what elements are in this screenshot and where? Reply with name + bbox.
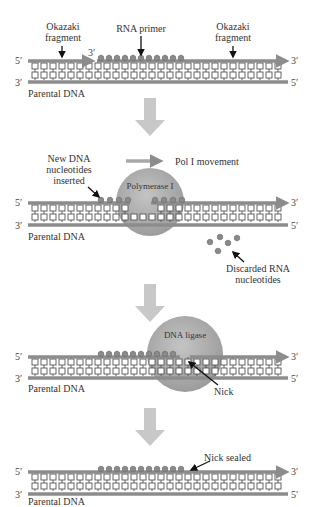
panel-step4 (28, 461, 288, 494)
end-3prime: 3′ (291, 198, 298, 208)
label-parental-dna: Parental DNA (28, 383, 85, 394)
end-3prime: 3′ (291, 56, 298, 66)
label-nick-sealed: Nick sealed (204, 452, 251, 463)
end-3prime-primer: 3′ (88, 48, 95, 58)
end-5prime: 5′ (15, 56, 22, 66)
label-discarded-rna: Discarded RNA nucleotides (222, 263, 294, 285)
step-arrow-1 (135, 98, 165, 136)
label-nick: Nick (214, 386, 233, 397)
label-okazaki-left: Okazaki fragment (38, 21, 88, 43)
end-5prime: 5′ (291, 78, 298, 88)
label-parental-dna: Parental DNA (28, 496, 85, 507)
step-arrow-3 (135, 408, 165, 446)
panel-step3 (28, 316, 288, 392)
end-5prime: 5′ (291, 490, 298, 500)
base-pairs (32, 61, 281, 80)
discarded-rna-beads (207, 234, 240, 254)
label-pol-movement: Pol I movement (175, 156, 239, 167)
dna-replication-diagram (0, 0, 310, 507)
label-parental-dna: Parental DNA (28, 88, 85, 99)
label-dna-ligase: DNA ligase (155, 330, 215, 341)
end-5prime: 5′ (15, 467, 22, 477)
step-arrow-2 (135, 284, 165, 322)
end-5prime: 5′ (291, 221, 298, 231)
end-3prime: 3′ (15, 221, 22, 231)
rna-primer-beads (98, 55, 184, 61)
end-3prime: 3′ (15, 374, 22, 384)
label-polymerase-i: Polymerase I (118, 181, 182, 192)
end-5prime: 5′ (15, 198, 22, 208)
label-new-dna-inserted: New DNA nucleotides inserted (40, 153, 98, 186)
end-3prime: 3′ (15, 78, 22, 88)
label-parental-dna: Parental DNA (28, 231, 85, 242)
label-rna-primer: RNA primer (110, 23, 172, 34)
end-3prime: 3′ (291, 352, 298, 362)
label-okazaki-right: Okazaki fragment (208, 21, 258, 43)
end-3prime: 3′ (291, 467, 298, 477)
end-5prime: 5′ (15, 352, 22, 362)
end-3prime: 3′ (15, 490, 22, 500)
end-5prime: 5′ (291, 374, 298, 384)
